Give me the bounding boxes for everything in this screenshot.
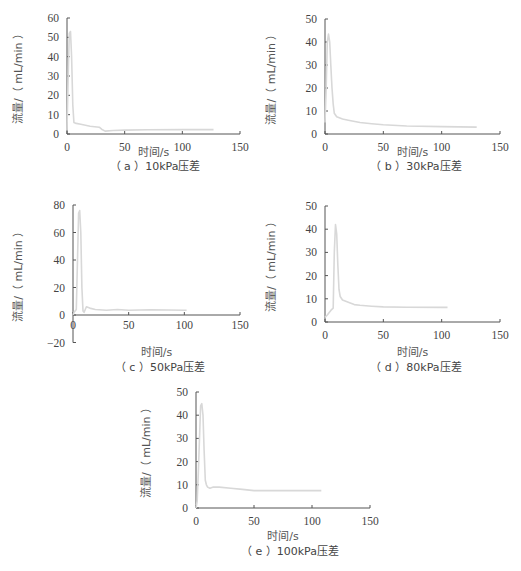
- x-tick-label: 150: [231, 319, 249, 331]
- y-tick-label: 10: [48, 109, 60, 121]
- x-tick-label: 150: [361, 515, 379, 527]
- y-tick-label: 0: [311, 128, 317, 140]
- x-axis-title: 时间/s: [397, 346, 429, 359]
- y-tick-label: 0: [53, 128, 59, 140]
- y-tick-label: 40: [48, 51, 60, 63]
- x-tick-label: 100: [303, 515, 321, 527]
- x-tick-label: 0: [322, 329, 328, 341]
- panel-caption: （ d ）80kPa压差: [370, 360, 461, 374]
- x-tick-label: 150: [491, 141, 509, 153]
- y-tick-label: 60: [54, 227, 66, 239]
- y-axis-title: 流量/（ mL/min ）: [264, 216, 278, 312]
- x-tick-label: 100: [433, 141, 451, 153]
- x-tick-label: 0: [64, 141, 70, 153]
- y-tick-label: 50: [306, 200, 318, 212]
- series-line-10kPa: [67, 32, 214, 132]
- y-tick-label: 20: [48, 89, 60, 101]
- x-tick-label: 50: [378, 141, 390, 153]
- y-axis-title: 流量/（ mL/min ）: [11, 28, 25, 124]
- series-line-80kPa: [325, 225, 448, 318]
- series-line-50kPa: [73, 211, 187, 316]
- y-tick-label: 0: [182, 502, 188, 514]
- x-axis-title: 时间/s: [141, 346, 173, 359]
- panel-caption: （ c ）50kPa压差: [115, 360, 205, 374]
- y-tick-label: 10: [306, 105, 318, 117]
- y-tick-label: 50: [177, 386, 189, 398]
- x-tick-label: 0: [193, 515, 199, 527]
- y-tick-label: 20: [54, 282, 66, 294]
- x-axis-title: 时间/s: [397, 146, 429, 159]
- chart-panel-a: 0102030405060050100150流量/（ mL/min ）时间/s（…: [11, 12, 249, 173]
- y-tick-label: 10: [306, 293, 318, 305]
- y-tick-label: 10: [177, 479, 189, 491]
- y-tick-label: 50: [306, 13, 318, 25]
- x-tick-label: 50: [248, 515, 260, 527]
- figure-canvas: 0102030405060050100150流量/（ mL/min ）时间/s（…: [0, 0, 521, 571]
- y-tick-label: 40: [54, 254, 66, 266]
- x-tick-label: 100: [176, 319, 194, 331]
- x-tick-label: 50: [119, 141, 131, 153]
- panel-caption: （ a ）10kPa压差: [110, 159, 201, 173]
- y-tick-label: 30: [306, 246, 318, 258]
- y-tick-label: 30: [177, 432, 189, 444]
- y-tick-label: 30: [48, 70, 60, 82]
- y-tick-label: 40: [306, 223, 318, 235]
- y-tick-label: 40: [177, 409, 189, 421]
- chart-panel-b: 01020304050050100150流量/（ mL/min ）时间/s（ b…: [264, 13, 509, 173]
- y-tick-label: 20: [306, 270, 318, 282]
- x-tick-label: 150: [231, 141, 249, 153]
- chart-panel-c: −20020406080050100150流量/（ mL/min ）时间/s（ …: [11, 199, 249, 374]
- x-tick-label: 100: [433, 329, 451, 341]
- y-axis-title: 流量/（ mL/min ）: [264, 29, 278, 125]
- y-tick-label: 60: [48, 12, 60, 24]
- y-tick-label: 0: [59, 309, 65, 321]
- x-tick-label: 0: [322, 141, 328, 153]
- series-line-30kPa: [325, 34, 477, 127]
- x-tick-label: 150: [491, 329, 509, 341]
- chart-panel-e: 01020304050050100150流量/（ mL/min ）时间/s（ e…: [139, 386, 379, 558]
- y-tick-label: 50: [48, 31, 60, 43]
- chart-panel-d: 01020304050050100150流量/（ mL/min ）时间/s（ d…: [264, 200, 509, 374]
- x-tick-label: 50: [123, 319, 135, 331]
- y-tick-label: 20: [177, 456, 189, 468]
- y-tick-label: −20: [47, 337, 65, 349]
- y-tick-label: 40: [306, 36, 318, 48]
- x-axis-title: 时间/s: [267, 530, 299, 543]
- y-axis-title: 流量/（ mL/min ）: [11, 226, 25, 322]
- panel-caption: （ e ）100kPa压差: [241, 544, 339, 558]
- panel-caption: （ b ）30kPa压差: [370, 159, 461, 173]
- x-tick-label: 50: [378, 329, 390, 341]
- series-line-100kPa: [196, 404, 321, 508]
- y-tick-label: 0: [311, 316, 317, 328]
- y-axis-title: 流量/（ mL/min ）: [139, 402, 153, 498]
- x-tick-label: 100: [174, 141, 192, 153]
- y-tick-label: 20: [306, 82, 318, 94]
- y-tick-label: 30: [306, 59, 318, 71]
- x-axis-title: 时间/s: [138, 146, 170, 159]
- y-tick-label: 80: [54, 199, 66, 211]
- x-tick-label: 0: [70, 319, 76, 331]
